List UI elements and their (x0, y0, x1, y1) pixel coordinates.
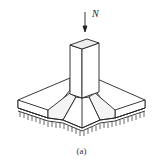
load-label: N (92, 8, 99, 19)
footing-diagram (0, 0, 163, 166)
figure-caption: (a) (0, 146, 163, 156)
load-arrow-icon (83, 12, 87, 32)
column (70, 39, 99, 98)
